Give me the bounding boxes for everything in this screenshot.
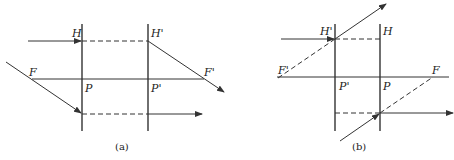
- panel-a: H H' F F' P P' (a): [6, 24, 224, 152]
- label-p: P: [84, 82, 93, 95]
- optics-figure: H H' F F' P P' (a) H' H F' F P' P (b): [0, 0, 454, 160]
- label-h: H: [382, 25, 393, 38]
- ray-through-f: [6, 62, 81, 113]
- label-p-prime: P': [150, 82, 161, 95]
- label-p: P: [382, 80, 391, 93]
- label-h-prime: H': [319, 25, 333, 38]
- label-f: F: [431, 64, 440, 77]
- diverging-ray: [335, 4, 386, 39]
- label-f: F: [28, 66, 37, 79]
- label-f-prime: F': [203, 66, 215, 79]
- label-p-prime: P': [338, 80, 349, 93]
- label-f-prime: F': [277, 64, 289, 77]
- label-h: H: [71, 27, 82, 40]
- panel-b: H' H F' F P' P (b): [277, 4, 453, 152]
- ray-aimed-at-f: [340, 114, 379, 141]
- label-h-prime: H': [150, 27, 164, 40]
- caption-a: (a): [115, 141, 129, 152]
- caption-b: (b): [352, 141, 366, 152]
